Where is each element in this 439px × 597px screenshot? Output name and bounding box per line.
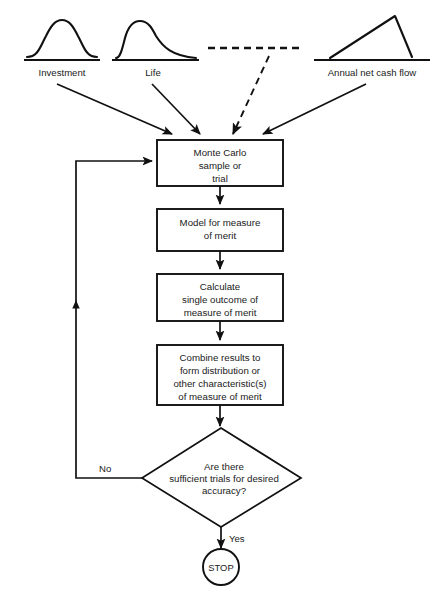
input-distribution-investment: Investment xyxy=(24,20,100,78)
feedback-loop-path xyxy=(76,161,152,478)
calculate-single-outcome-line-1: Calculate xyxy=(200,281,240,292)
process-box-combine-results: Combine results to form distribution or … xyxy=(157,345,283,405)
decision-line-3: accuracy? xyxy=(202,485,247,496)
decision-line-2: sufficient trials for desired xyxy=(169,473,279,484)
stop-label: STOP xyxy=(208,562,233,573)
decision-line-1: Are there xyxy=(204,461,244,472)
input-distribution-annual-net-cash-flow: Annual net cash flow xyxy=(314,16,430,78)
combine-results-line-4: of measure of merit xyxy=(178,391,262,402)
calculate-single-outcome-line-2: single outcome of xyxy=(182,294,258,305)
model-measure-of-merit-line-1: Model for measure xyxy=(180,217,261,228)
monte-carlo-flowchart-figure: Investment Life Annual net cash flow xyxy=(0,0,439,597)
input-connectors xyxy=(57,56,366,134)
process-box-model-measure-of-merit: Model for measure of merit xyxy=(157,209,283,251)
yes-branch-to-stop: Yes xyxy=(221,527,245,548)
combine-results-line-3: other characteristic(s) xyxy=(173,378,266,389)
monte-carlo-sample-line-3: trial xyxy=(212,173,228,184)
connector-omitted-to-monte-carlo xyxy=(233,56,269,134)
feedback-loop-midpoint-arrowhead xyxy=(72,300,79,309)
connector-life-to-monte-carlo xyxy=(152,84,200,134)
model-measure-of-merit-line-2: of merit xyxy=(204,230,237,241)
feedback-loop-no-branch: No xyxy=(72,161,152,478)
annual-net-cash-flow-label: Annual net cash flow xyxy=(328,67,417,78)
investment-curve xyxy=(27,20,97,57)
life-curve xyxy=(116,21,196,58)
connector-investment-to-monte-carlo xyxy=(57,84,172,134)
combine-results-line-2: form distribution or xyxy=(180,365,261,376)
monte-carlo-sample-line-1: Monte Carlo xyxy=(194,147,247,158)
input-distribution-life: Life xyxy=(112,21,199,78)
calculate-single-outcome-line-3: measure of merit xyxy=(184,307,257,318)
combine-results-line-1: Combine results to xyxy=(180,352,261,363)
terminal-stop: STOP xyxy=(203,549,239,585)
monte-carlo-sample-line-2: sample or xyxy=(199,160,242,171)
process-box-calculate-single-outcome: Calculate single outcome of measure of m… xyxy=(157,274,283,321)
decision-no-label: No xyxy=(99,463,111,474)
investment-label: Investment xyxy=(39,67,86,78)
life-label: Life xyxy=(145,67,160,78)
process-box-monte-carlo-sample: Monte Carlo sample or trial xyxy=(157,140,283,186)
connector-annual-net-cash-flow-to-monte-carlo xyxy=(263,84,366,134)
decision-yes-label: Yes xyxy=(229,533,245,544)
annual-net-cash-flow-curve xyxy=(330,16,412,58)
decision-sufficient-trials: Are there sufficient trials for desired … xyxy=(142,428,301,527)
